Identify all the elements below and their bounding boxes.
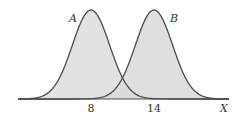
tick-label-14: 14 (147, 102, 161, 115)
x-axis-label: X (219, 102, 229, 115)
curve-b-label: B (169, 12, 178, 25)
tick-label-8: 8 (88, 102, 95, 115)
curve-b-fill (18, 10, 229, 99)
overlapping-normal-distributions: A B 8 14 X (0, 0, 244, 118)
curve-a-label: A (68, 12, 77, 25)
